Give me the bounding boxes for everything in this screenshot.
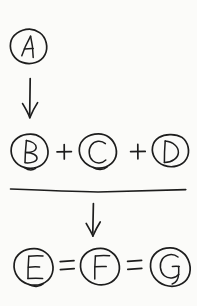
term-c: C [0,0,116,170]
letter-a-crossbar [24,48,33,49]
sketch-canvas: A B + C [0,0,197,306]
term-g: G [0,0,190,286]
letter-a-right-stroke [31,36,34,57]
letter-a-left-stroke [22,36,31,56]
arrow-2-head-right [93,222,100,236]
handwritten-diagram: A B + C [0,0,197,306]
horizontal-rule [11,189,186,192]
divider-line [11,189,186,192]
arrow-2-head-left [86,223,93,236]
term-a: A [0,0,47,64]
arrow-2-shaft [93,204,94,233]
letter-c-stroke [89,141,106,163]
arrow-1-head-right [30,103,38,118]
term-f: F [0,0,119,285]
arrow-1-shaft [30,79,31,115]
letter-b-lower-bowl [25,153,37,163]
equals-1-upper [60,261,74,262]
letter-b-spine [25,140,26,162]
circle-a [10,29,46,63]
letter-d-bowl [164,141,178,163]
arrow-1-head-left [23,104,30,118]
letter-d-spine [164,141,165,163]
equals-2-lower [128,268,142,269]
arrow-2 [86,204,100,236]
equals-2: = [0,0,142,269]
arrow-1 [23,79,38,118]
letter-b-upper-bowl [26,141,36,153]
term-b: B [0,0,48,170]
circle-g [150,248,190,286]
equals-2-upper [128,260,142,261]
equals-1-lower [60,269,74,270]
